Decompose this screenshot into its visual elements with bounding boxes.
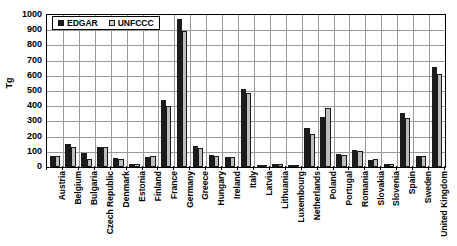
x-axis-category-labels: AustriaBelgiumBulgariaCzech RepublicDenm… — [46, 171, 446, 245]
x-axis-label: Czech Republic — [105, 171, 115, 234]
x-axis-label: Italy — [248, 171, 258, 188]
bar-group — [143, 15, 159, 167]
x-axis-tick — [269, 166, 270, 170]
bar-group — [381, 15, 397, 167]
bar-group — [302, 15, 318, 167]
x-axis-label: Greece — [200, 171, 210, 200]
y-axis-title: Tg — [4, 76, 14, 90]
x-axis-label: Luxembourg — [296, 171, 306, 222]
x-axis-tick — [317, 166, 318, 170]
bar-group — [365, 15, 381, 167]
x-axis-label: Portugal — [344, 171, 354, 205]
x-axis-label: Belgium — [73, 171, 83, 205]
bar-unfccc — [71, 147, 76, 167]
x-axis-label: Poland — [328, 171, 338, 199]
x-axis-label: Bulgaria — [89, 171, 99, 205]
x-axis-label: United Kingdom — [439, 171, 449, 237]
x-axis-tick-marks — [46, 166, 446, 170]
bar-group — [222, 15, 238, 167]
x-axis-label: Estonia — [137, 171, 147, 202]
bar-unfccc — [405, 118, 410, 167]
bar-unfccc — [437, 74, 442, 167]
bar-group — [334, 15, 350, 167]
x-axis-label: Romania — [360, 171, 370, 207]
legend-swatch-icon-edgar — [58, 20, 64, 26]
x-axis-tick — [110, 166, 111, 170]
y-axis-tick-label: 800 — [27, 40, 42, 49]
x-axis-label: Finland — [153, 171, 163, 201]
bar-unfccc — [310, 134, 315, 167]
y-axis-tick-label: 700 — [27, 55, 42, 64]
x-axis-label: Netherlands — [312, 171, 322, 220]
bar-unfccc — [325, 108, 330, 167]
x-axis-tick — [173, 166, 174, 170]
y-axis-tick-label: 0 — [37, 162, 42, 171]
x-axis-tick — [253, 166, 254, 170]
bar-unfccc — [198, 148, 203, 167]
x-axis-label: France — [169, 171, 179, 199]
x-axis-tick — [396, 166, 397, 170]
legend-swatch-icon-unfccc — [109, 20, 115, 26]
x-axis-label: Slovenia — [391, 171, 401, 206]
y-axis-tick-label: 100 — [27, 146, 42, 155]
x-axis-tick — [46, 166, 47, 170]
legend-label-edgar: EDGAR — [67, 18, 98, 28]
x-axis-tick — [285, 166, 286, 170]
legend-label-unfccc: UNFCCC — [118, 18, 154, 28]
y-axis-tick-label: 1000 — [22, 10, 42, 19]
bar-group — [127, 15, 143, 167]
bar-group — [254, 15, 270, 167]
x-axis-label: Hungary — [216, 171, 226, 205]
y-axis-tick-label: 900 — [27, 25, 42, 34]
y-axis-tick-label: 600 — [27, 70, 42, 79]
bar-group — [413, 15, 429, 167]
bar-group — [429, 15, 445, 167]
x-axis-label: Germany — [185, 171, 195, 208]
x-axis-tick — [333, 166, 334, 170]
bar-group — [79, 15, 95, 167]
x-axis-tick — [78, 166, 79, 170]
bar-group — [47, 15, 63, 167]
x-axis-label: Spain — [407, 171, 417, 194]
bar-group — [174, 15, 190, 167]
x-axis-tick — [444, 166, 445, 170]
bar-group — [286, 15, 302, 167]
bars-layer — [47, 15, 445, 167]
bar-group — [238, 15, 254, 167]
x-axis-tick — [142, 166, 143, 170]
bar-group — [63, 15, 79, 167]
bar-group — [270, 15, 286, 167]
y-axis-tick-labels: 01002003004005006007008009001000 — [14, 8, 44, 172]
x-axis-tick — [380, 166, 381, 170]
y-axis-tick-label: 200 — [27, 131, 42, 140]
bar-group — [397, 15, 413, 167]
x-axis-label: Latvia — [264, 171, 274, 196]
bar-unfccc — [166, 106, 171, 167]
plot-area — [46, 14, 446, 168]
x-axis-tick — [157, 166, 158, 170]
x-axis-tick — [94, 166, 95, 170]
bar-group — [206, 15, 222, 167]
y-axis-tick-label: 300 — [27, 116, 42, 125]
bar-unfccc — [103, 147, 108, 167]
bar-group — [190, 15, 206, 167]
bar-unfccc — [357, 151, 362, 167]
x-axis-label: Sweden — [423, 171, 433, 203]
chart-legend: EDGAR UNFCCC — [52, 16, 160, 30]
x-axis-label: Lithuania — [280, 171, 290, 209]
x-axis-tick — [428, 166, 429, 170]
x-axis-label: Slovakia — [376, 171, 386, 206]
x-axis-tick — [237, 166, 238, 170]
legend-entry-unfccc: UNFCCC — [109, 18, 154, 28]
y-axis-tick-label: 500 — [27, 86, 42, 95]
bar-group — [111, 15, 127, 167]
bar-group — [318, 15, 334, 167]
bar-group — [95, 15, 111, 167]
x-axis-tick — [221, 166, 222, 170]
x-axis-tick — [189, 166, 190, 170]
x-axis-label: Ireland — [232, 171, 242, 199]
bar-unfccc — [246, 93, 251, 167]
x-axis-label: Denmark — [121, 171, 131, 207]
bar-chart: Tg 01002003004005006007008009001000 Aust… — [0, 0, 457, 246]
legend-entry-edgar: EDGAR — [58, 18, 98, 28]
